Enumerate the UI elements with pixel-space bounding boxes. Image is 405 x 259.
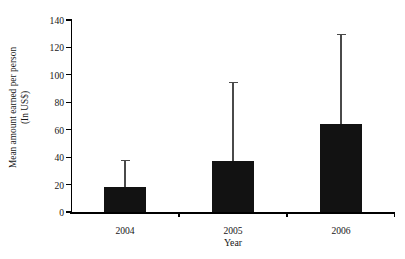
y-axis-tick xyxy=(66,184,71,185)
y-axis-tick-label: 140 xyxy=(50,15,64,26)
x-axis-tick-label: 2004 xyxy=(115,225,134,236)
y-axis-tick xyxy=(66,74,71,75)
error-bar-stem xyxy=(232,82,233,162)
x-axis-line xyxy=(70,212,395,214)
bar xyxy=(104,187,146,212)
y-axis-tick-label: 80 xyxy=(54,97,64,108)
plot-area: 020406080100120140 200420052006 xyxy=(71,20,395,212)
y-axis-tick-label: 0 xyxy=(59,207,64,218)
y-axis-tick-label: 120 xyxy=(50,42,64,53)
error-bar-cap xyxy=(229,82,238,83)
error-bar-cap xyxy=(121,160,130,161)
y-axis-tick xyxy=(66,211,71,212)
x-axis-title: Year xyxy=(71,237,395,248)
y-axis-title: Mean amount earned per person (In US$) xyxy=(0,0,40,215)
y-axis-title-line-1: Mean amount earned per person xyxy=(9,47,19,168)
error-bar-stem xyxy=(340,34,341,125)
x-axis-end-tick xyxy=(394,212,395,217)
y-axis-tick xyxy=(66,102,71,103)
y-axis-tick-label: 40 xyxy=(54,152,64,163)
y-axis-tick-label: 60 xyxy=(54,124,64,135)
y-axis-tick xyxy=(66,129,71,130)
y-axis-tick xyxy=(66,19,71,20)
bar-chart-figure: Mean amount earned per person (In US$) 0… xyxy=(0,0,405,259)
x-axis-tick xyxy=(286,212,287,217)
y-axis-tick xyxy=(66,47,71,48)
y-axis-tick-label: 100 xyxy=(50,69,64,80)
y-axis-title-line-2: (In US$) xyxy=(20,47,32,168)
y-axis-line xyxy=(71,19,72,212)
x-axis-tick-label: 2005 xyxy=(223,225,242,236)
x-axis-tick-label: 2006 xyxy=(331,225,350,236)
bar xyxy=(320,124,362,212)
x-axis-tick xyxy=(178,212,179,217)
y-axis-tick-label: 20 xyxy=(54,179,64,190)
y-axis-tick xyxy=(66,157,71,158)
error-bar-stem xyxy=(124,160,125,187)
bar xyxy=(212,161,254,212)
error-bar-cap xyxy=(337,34,346,35)
